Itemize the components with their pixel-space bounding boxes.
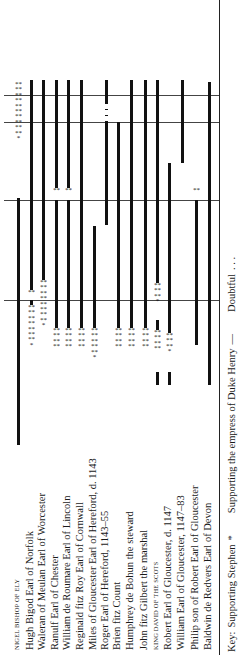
- key-doubtful-symbol: . . .: [226, 257, 237, 270]
- empress-support-bar: [181, 80, 184, 163]
- empress-support-bar: [80, 80, 83, 328]
- stephen-support-stars: ********: [53, 328, 60, 370]
- stephen-support-stars: ********: [154, 330, 161, 372]
- empress-support-bar: [17, 198, 20, 445]
- reference-line-2: [4, 122, 219, 123]
- empress-support-bar: [156, 320, 159, 330]
- empress-support-bar: [208, 82, 211, 385]
- key-stephen-symbol: *: [226, 535, 237, 540]
- row-label: Baldwin de Redvers Earl of Devon: [202, 503, 214, 650]
- row-label: NIGEL BISHOP OF ELY: [11, 579, 23, 650]
- stephen-support-stars: **: [65, 188, 72, 200]
- empress-support-bar: [156, 80, 159, 283]
- stephen-support-stars: ********: [142, 328, 149, 370]
- stephen-support-stars: **: [28, 290, 35, 300]
- chart-right-border: [219, 0, 220, 655]
- row-label: Brien fitz Count: [111, 582, 123, 650]
- row-label: John fitz Gilbert the marshal: [138, 530, 150, 650]
- row-label: Miles of Gloucester Earl of Hereford, d.…: [87, 458, 99, 650]
- key-empress-symbol: —: [226, 334, 237, 345]
- reference-line-4: [4, 300, 219, 301]
- empress-support-bar: [93, 226, 96, 328]
- stephen-support-stars: *****************: [40, 280, 47, 370]
- empress-support-bar: [195, 200, 198, 345]
- stephen-support-stars: ********: [65, 328, 72, 370]
- stephen-support-stars: ********: [78, 328, 85, 370]
- row-label: Hugh Bigod Earl of Norfolk: [24, 531, 36, 650]
- empress-support-bar: [55, 200, 58, 328]
- row-label: William Earl of Gloucester, 1147–83: [175, 495, 187, 650]
- stephen-support-stars: ********: [128, 328, 135, 370]
- row-label: KING DAVID OF THE SCOTS: [150, 561, 162, 650]
- row-label: Roger Earl of Hereford, 1143–55: [99, 511, 111, 650]
- row-label: Ranulf Earl of Chester: [49, 555, 61, 650]
- reference-line-1: [4, 95, 219, 96]
- empress-support-bar: [42, 80, 45, 280]
- stephen-support-stars: ***************: [28, 305, 35, 385]
- key-doubtful-text: Doubtful: [226, 274, 237, 312]
- stephen-support-stars: *******: [154, 283, 161, 320]
- empress-support-bar: [144, 80, 147, 328]
- stephen-support-stars: **: [53, 188, 60, 200]
- stephen-support-stars: ********: [115, 328, 122, 370]
- chart-key: Key:Supporting Stephen*Supporting the em…: [226, 253, 237, 652]
- empress-support-bar: [67, 200, 70, 328]
- empress-support-bar: [105, 122, 108, 225]
- key-empress-text: Supporting the empress of Duke Henry: [226, 348, 237, 513]
- empress-support-bar: [130, 80, 133, 328]
- row-label: Humphrey de Bohun the steward: [124, 511, 136, 650]
- row-label: Philip son of Robert Earl of Gloucester: [189, 486, 201, 650]
- empress-support-bar: [156, 372, 159, 385]
- row-label: Waleran of Meulan Earl of Worcester: [36, 493, 48, 650]
- reference-line-3: [4, 200, 219, 201]
- empress-support-bar: [67, 80, 70, 188]
- key-label: Key:: [226, 632, 237, 652]
- stephen-support-stars: *******: [166, 333, 173, 372]
- empress-support-bar: [168, 372, 171, 385]
- empress-support-bar: [30, 80, 33, 290]
- stephen-support-stars: ***********: [91, 328, 98, 385]
- empress-support-bar: [55, 80, 58, 188]
- row-label: William de Roumare Earl of Lincoln: [61, 496, 73, 650]
- stephen-support-stars: **: [193, 188, 200, 200]
- stephen-support-stars: *********************: [15, 82, 22, 198]
- key-stephen-text: Supporting Stephen: [226, 544, 237, 627]
- row-label: Reginald fitz Roy Earl of Cornwall: [74, 502, 86, 650]
- doubtful-dots: [105, 103, 108, 122]
- empress-support-bar: [105, 80, 108, 103]
- row-label: Robert Earl of Gloucester, d. 1147: [162, 506, 174, 650]
- empress-support-bar: [168, 163, 171, 333]
- empress-support-bar: [117, 122, 120, 328]
